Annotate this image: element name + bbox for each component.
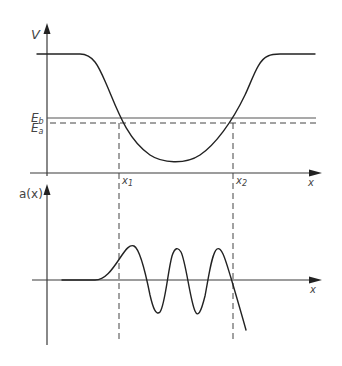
a-axis-label: a(x) [19, 187, 43, 201]
bottom-x-axis-label: x [309, 284, 316, 295]
potential-well-figure: V x Eb Ea x1 x2 a(x) [0, 0, 342, 366]
v-axis-arrow-icon [44, 23, 51, 34]
top-plot: V x Eb Ea x1 x2 [30, 23, 322, 188]
v-axis-label: V [31, 27, 41, 42]
top-x-axis-label: x [307, 177, 314, 188]
bottom-plot: a(x) x [19, 184, 322, 345]
turning-point-x2-label: x2 [235, 175, 247, 188]
turning-point-x1-label: x1 [121, 175, 133, 188]
a-axis-arrow-icon [44, 184, 51, 195]
bottom-x-axis-arrow-icon [309, 277, 322, 284]
potential-curve [37, 54, 315, 162]
wavefunction-curve [62, 246, 246, 330]
top-x-axis-arrow-icon [309, 170, 322, 177]
